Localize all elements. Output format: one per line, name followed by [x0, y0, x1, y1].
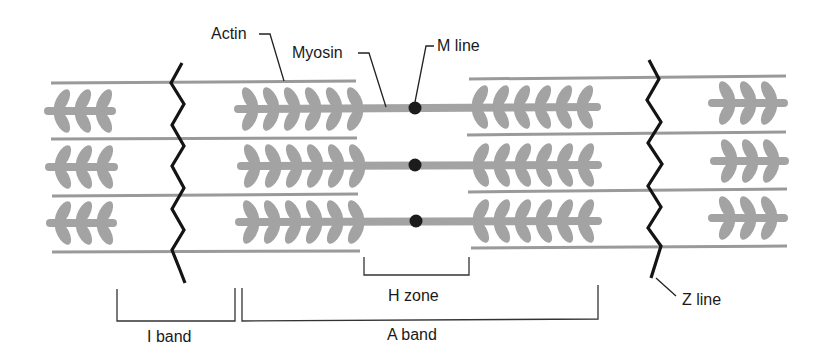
z-line-leader	[656, 278, 676, 296]
h-zone-label: H zone	[388, 288, 439, 304]
m-line-leader	[415, 46, 434, 102]
brackets	[117, 257, 598, 321]
z-line-left	[171, 63, 185, 283]
myosin-label: Myosin	[292, 45, 343, 61]
myosin-far-right	[712, 79, 785, 243]
m-line-dots	[409, 102, 423, 228]
z-line-label: Z line	[682, 292, 721, 308]
actin-leader	[259, 34, 284, 81]
z-line-right	[647, 60, 662, 278]
myosin-far-left	[48, 87, 116, 248]
h-zone-bracket	[364, 257, 469, 275]
myosin-thick-filaments	[238, 83, 598, 247]
i-band-bracket	[117, 288, 235, 321]
i-band-label: I band	[147, 329, 191, 345]
actin-label: Actin	[211, 26, 247, 42]
sarcomere-diagram: Actin Myosin M line H zone I band A band…	[0, 0, 817, 361]
a-band-label: A band	[387, 327, 437, 343]
myosin-leader	[358, 53, 386, 107]
m-line-label: M line	[437, 38, 480, 54]
